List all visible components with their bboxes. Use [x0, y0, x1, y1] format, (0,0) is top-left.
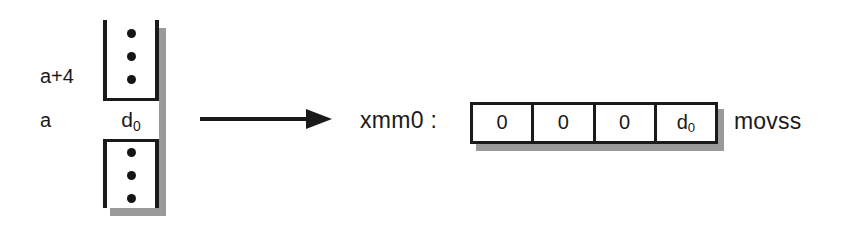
xmm0-lane-3-text: 0: [497, 112, 508, 132]
ellipsis-dot: [127, 148, 136, 157]
arrow-right-icon: [200, 104, 332, 134]
memory-column-body: d0: [103, 20, 159, 208]
ellipsis-dot: [127, 171, 136, 180]
memory-ellipsis-above: [127, 29, 137, 84]
ellipsis-dot: [127, 194, 136, 203]
address-label-a-plus-4: a+4: [40, 66, 74, 86]
ellipsis-dot: [127, 52, 136, 61]
register-name-label: xmm0 :: [360, 109, 437, 132]
memory-ellipsis-below: [127, 148, 137, 203]
memory-cell-d0-base: d: [121, 108, 133, 131]
xmm0-lane-1-base: 0: [619, 111, 630, 133]
xmm0-lane-0-subscript: 0: [688, 120, 695, 135]
xmm0-lane-2-base: 0: [558, 111, 569, 133]
instruction-mnemonic-label: movss: [734, 110, 801, 133]
memory-cell-d0-subscript: 0: [133, 118, 141, 134]
transfer-arrow: [200, 104, 332, 134]
xmm0-lane-1: 0: [596, 105, 657, 141]
ellipsis-dot: [127, 29, 136, 38]
xmm0-lane-0-text: d0: [677, 112, 695, 132]
xmm0-lane-0: d0: [657, 105, 715, 141]
memory-column: d0: [103, 20, 159, 208]
memory-cell-d0: d0: [103, 98, 159, 142]
xmm0-register-body: 0 0 0 d0: [470, 102, 718, 144]
ellipsis-dot: [127, 75, 136, 84]
xmm0-register: 0 0 0 d0: [470, 102, 718, 144]
diagram-canvas: d0 a+4 a xmm0 : 0 0: [0, 0, 858, 243]
address-label-a: a: [40, 110, 51, 130]
xmm0-lane-3-base: 0: [497, 111, 508, 133]
xmm0-lane-3: 0: [473, 105, 534, 141]
xmm0-lane-1-text: 0: [619, 112, 630, 132]
xmm0-lane-2: 0: [534, 105, 595, 141]
xmm0-lane-0-base: d: [677, 111, 688, 133]
memory-cell-d0-text: d0: [103, 109, 159, 130]
xmm0-lane-2-text: 0: [558, 112, 569, 132]
